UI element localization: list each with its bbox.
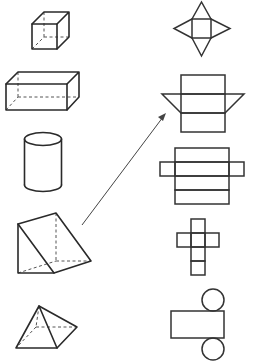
cylinder-solid: Cylinder	[25, 133, 62, 192]
match-arrow: triangular-prism → net-triangular-prism	[82, 113, 166, 225]
triangular-prism-solid: Triangular prism	[18, 213, 91, 273]
cube-net: Six squares in a cross	[177, 219, 219, 275]
cube-solid: Cube	[32, 12, 69, 49]
solids-nets-diagram: Match 3D solids to their nets Cube Recta…	[0, 0, 264, 363]
square-pyramid-solid: Square pyramid	[16, 306, 77, 348]
cylinder-net: Rectangle with two circles	[171, 289, 224, 360]
rectangular-prism-solid: Rectangular prism (cuboid)	[6, 72, 79, 110]
rectangular-prism-net: Four stacked rectangles with two side fl…	[160, 148, 244, 204]
triangular-prism-net: Three rectangles with two triangles	[162, 75, 244, 132]
square-pyramid-net: Square with four triangles	[174, 2, 230, 56]
